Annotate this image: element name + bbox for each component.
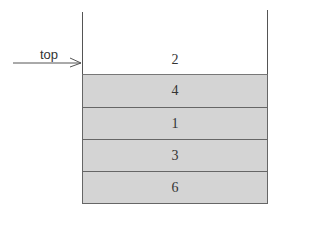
top-slot-value: 2 (82, 52, 268, 68)
stack-cell: 3 (83, 139, 267, 171)
stack-cell: 6 (83, 171, 267, 203)
stack-cell: 1 (83, 107, 267, 139)
stack-cell: 4 (83, 75, 267, 107)
top-pointer-label: top (40, 47, 58, 62)
stack-cells: 4 1 3 6 (82, 74, 268, 204)
